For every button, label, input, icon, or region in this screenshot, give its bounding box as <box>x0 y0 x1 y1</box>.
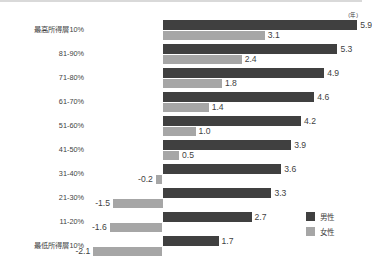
bar-male <box>163 44 338 54</box>
bar-group-female: -1.5 <box>0 199 362 209</box>
bar-male <box>163 116 302 126</box>
bar-value-label: 1.0 <box>196 126 211 137</box>
bar-female <box>93 247 162 257</box>
bar-value-label: 1.4 <box>209 102 224 113</box>
bar-value-label: 1.7 <box>219 236 234 247</box>
bar-group-male: 5.3 <box>0 44 362 54</box>
bar-group-male: 3.9 <box>0 140 362 150</box>
chart-row: 41-50%3.90.5 <box>0 139 362 163</box>
bar-female <box>163 55 242 65</box>
bar-group-male: 4.9 <box>0 68 362 78</box>
bar-group-female: 1.0 <box>0 127 362 137</box>
bar-male <box>163 68 325 78</box>
bar-group-female: 0.5 <box>0 151 362 161</box>
bar-group-male: 4.2 <box>0 116 362 126</box>
legend-label-female: 女性 <box>320 226 334 237</box>
bar-value-label: 4.9 <box>324 68 339 79</box>
bar-male <box>163 212 252 222</box>
bar-male <box>163 92 315 102</box>
bar-value-label: 3.3 <box>271 188 286 199</box>
chart-row: 最高所得層10%5.93.1 <box>0 19 362 43</box>
legend-label-male: 男性 <box>320 211 334 222</box>
bar-value-label: 4.2 <box>301 116 316 127</box>
bar-female <box>163 127 196 137</box>
bar-male <box>163 236 219 246</box>
bar-group-male: 5.9 <box>0 20 362 30</box>
bar-group-male: 3.6 <box>0 164 362 174</box>
bar-group-female: 3.1 <box>0 31 362 41</box>
bar-female <box>110 223 163 233</box>
bar-value-label: -0.2 <box>138 174 156 185</box>
bar-female <box>156 175 163 185</box>
chart-row: 51-60%4.21.0 <box>0 115 362 139</box>
bar-female <box>163 31 265 41</box>
bar-value-label: 4.6 <box>314 92 329 103</box>
bar-female <box>113 199 163 209</box>
bar-value-label: 0.5 <box>179 150 194 161</box>
bar-male <box>163 20 358 30</box>
legend-item-male: 男性 <box>306 210 360 223</box>
chart-row: 81-90%5.32.4 <box>0 43 362 67</box>
bar-female <box>163 103 209 113</box>
legend-swatch-female-icon <box>306 227 315 236</box>
legend-swatch-male-icon <box>306 212 315 221</box>
bar-male <box>163 164 282 174</box>
bar-male <box>163 140 292 150</box>
bar-value-label: 3.6 <box>281 164 296 175</box>
bar-group-female: 1.8 <box>0 79 362 89</box>
bar-female <box>163 151 180 161</box>
bar-group-male: 3.3 <box>0 188 362 198</box>
bar-value-label: -1.5 <box>95 198 113 209</box>
bar-value-label: 2.4 <box>242 54 257 65</box>
bar-group-female: -2.1 <box>0 247 362 257</box>
bar-value-label: 5.9 <box>357 20 372 31</box>
bar-value-label: -1.6 <box>92 222 110 233</box>
chart-legend: 男性 女性 <box>306 210 360 240</box>
bar-male <box>163 188 272 198</box>
bar-group-male: 4.6 <box>0 92 362 102</box>
bar-value-label: 2.7 <box>252 212 267 223</box>
chart-row: 31-40%3.6-0.2 <box>0 163 362 187</box>
bar-value-label: 3.9 <box>291 140 306 151</box>
chart-row: 61-70%4.61.4 <box>0 91 362 115</box>
bar-value-label: 5.3 <box>337 44 352 55</box>
legend-item-female: 女性 <box>306 225 360 238</box>
bar-female <box>163 79 222 89</box>
bar-value-label: 3.1 <box>265 30 280 41</box>
bar-group-female: 2.4 <box>0 55 362 65</box>
bar-value-label: 1.8 <box>222 78 237 89</box>
bar-group-female: 1.4 <box>0 103 362 113</box>
chart-row: 71-80%4.91.8 <box>0 67 362 91</box>
unit-label: (年) <box>348 11 358 19</box>
chart-row: 21-30%3.3-1.5 <box>0 187 362 211</box>
bar-group-female: -0.2 <box>0 175 362 185</box>
bar-value-label: -2.1 <box>75 246 93 257</box>
